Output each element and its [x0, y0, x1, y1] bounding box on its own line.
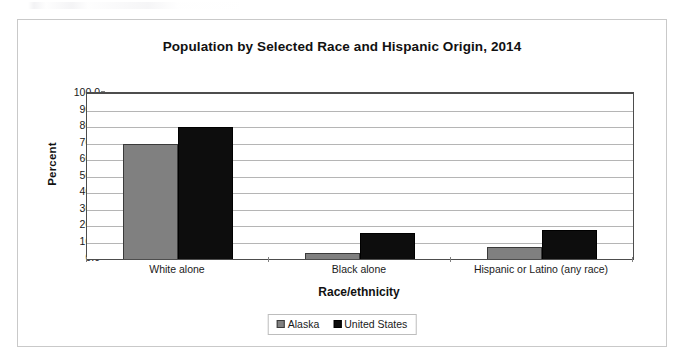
plot-wrapper: Percent 100.090.080.070.060.050.040.030.…	[18, 20, 666, 346]
legend-swatch-icon	[333, 320, 341, 328]
x-axis-title: Race/ethnicity	[86, 285, 632, 299]
legend-swatch-icon	[277, 320, 285, 328]
bar-alaska[interactable]	[123, 144, 178, 259]
x-axis-tickmark	[450, 257, 451, 262]
bar-group	[269, 94, 451, 259]
legend-item-alaska[interactable]: Alaska	[277, 318, 320, 330]
bars-layer	[87, 94, 633, 259]
x-axis-tick-label: White alone	[86, 263, 268, 275]
bar-group	[87, 94, 269, 259]
x-axis-tickmark	[268, 257, 269, 262]
bar-group	[451, 94, 633, 259]
bar-united-states[interactable]	[360, 233, 415, 259]
x-axis-tickmark	[86, 257, 87, 262]
legend-item-united-states[interactable]: United States	[333, 318, 407, 330]
chart-figure: Population by Selected Race and Hispanic…	[17, 19, 667, 347]
bar-united-states[interactable]	[542, 230, 597, 259]
scan-artifact	[28, 2, 278, 9]
x-axis-tick-labels: White aloneBlack aloneHispanic or Latino…	[86, 263, 632, 275]
legend-label: Alaska	[288, 318, 320, 330]
legend-label: United States	[344, 318, 407, 330]
x-axis-tickmark	[632, 257, 633, 262]
x-axis-tick-label: Hispanic or Latino (any race)	[450, 263, 632, 275]
chart-legend: AlaskaUnited States	[268, 314, 417, 335]
x-axis-tick-label: Black alone	[268, 263, 450, 275]
plot-area	[86, 92, 634, 260]
bar-united-states[interactable]	[178, 127, 233, 259]
